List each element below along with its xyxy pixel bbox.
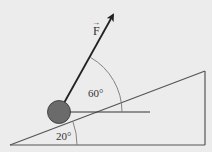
force-label: F: [93, 24, 100, 38]
incline-angle-label: 20°: [56, 130, 71, 142]
incline-surface: [10, 71, 205, 145]
incline-force-diagram: → F 60° 20°: [0, 0, 212, 152]
ball-object: [48, 101, 71, 124]
incline-angle-arc: [73, 122, 77, 145]
force-angle-label: 60°: [88, 87, 103, 99]
